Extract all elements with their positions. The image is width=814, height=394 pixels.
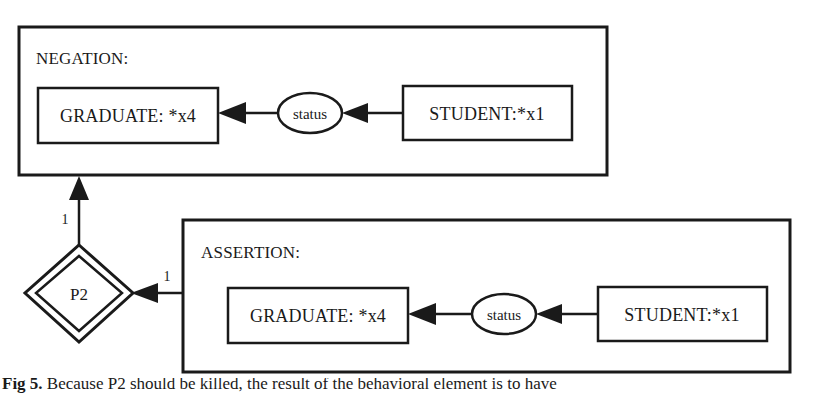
negation-graduate-label: GRADUATE: *x4 xyxy=(60,106,196,126)
assertion-context-label: ASSERTION: xyxy=(201,243,300,262)
figure-caption-rest: Because P2 should be killed, the result … xyxy=(47,378,557,393)
arc-assertion-to-p2-label: 1 xyxy=(164,269,171,284)
negation-context: NEGATION: GRADUATE: *x4 status STUDENT:*… xyxy=(19,27,607,175)
figure-caption-clip: Fig 5. Because P2 should be killed, the … xyxy=(0,378,814,394)
negation-student-concept: STUDENT:*x1 xyxy=(403,86,572,140)
arc-p2-to-negation: 1 xyxy=(62,176,90,246)
negation-student-label: STUDENT:*x1 xyxy=(429,104,544,124)
assertion-student-label: STUDENT:*x1 xyxy=(624,305,739,325)
negation-context-label: NEGATION: xyxy=(36,49,128,68)
figure-caption-label: Fig 5. xyxy=(2,378,43,393)
conceptual-graph-figure: NEGATION: GRADUATE: *x4 status STUDENT:*… xyxy=(0,0,814,394)
negation-status-relation: status xyxy=(278,93,342,133)
arc-p2-to-negation-label: 1 xyxy=(62,212,69,227)
assertion-graduate-label: GRADUATE: *x4 xyxy=(250,306,386,326)
assertion-status-label: status xyxy=(487,307,521,323)
arrowhead-icon xyxy=(131,283,158,303)
figure-caption: Fig 5. Because P2 should be killed, the … xyxy=(2,378,812,394)
negation-status-label: status xyxy=(293,106,327,122)
assertion-status-relation: status xyxy=(472,294,536,334)
assertion-context: ASSERTION: GRADUATE: *x4 status STUDENT:… xyxy=(183,220,790,372)
arc-assertion-to-p2: 1 xyxy=(131,269,183,303)
negation-graduate-concept: GRADUATE: *x4 xyxy=(38,88,218,143)
arrowhead-icon xyxy=(69,176,89,200)
assertion-graduate-concept: GRADUATE: *x4 xyxy=(228,288,408,343)
diagram-canvas: NEGATION: GRADUATE: *x4 status STUDENT:*… xyxy=(0,0,814,394)
proposition-node-p2: P2 xyxy=(25,245,133,342)
p2-label: P2 xyxy=(70,285,88,304)
assertion-student-concept: STUDENT:*x1 xyxy=(598,287,767,341)
